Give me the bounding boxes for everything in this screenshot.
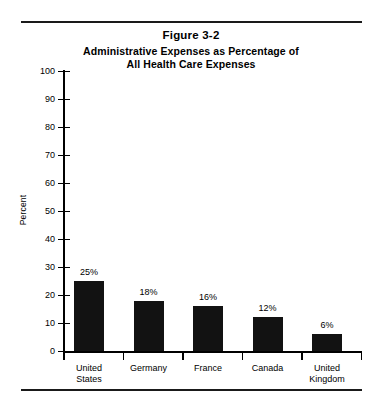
- y-axis-tick-label: 10: [25, 319, 55, 328]
- x-axis-category-label: France: [175, 363, 241, 374]
- y-axis-tick: [58, 99, 70, 101]
- x-axis-tick: [123, 351, 125, 360]
- y-axis-tick: [58, 211, 70, 213]
- bar-chart-plot: Percent 0102030405060708090100 25%18%16%…: [0, 0, 382, 410]
- y-axis-tick-label: 70: [25, 151, 55, 160]
- x-axis-tick: [63, 351, 65, 360]
- bar: [193, 306, 223, 351]
- x-axis-category-label: Canada: [235, 363, 301, 374]
- x-axis-category-label: UnitedKingdom: [294, 363, 360, 385]
- y-axis-tick: [58, 323, 70, 325]
- y-axis-tick-label: 20: [25, 291, 55, 300]
- bottom-rule: [21, 389, 362, 391]
- y-axis-tick: [58, 127, 70, 129]
- category-label-line: States: [56, 374, 122, 385]
- y-axis-tick: [58, 183, 70, 185]
- y-axis-tick-label: 50: [25, 207, 55, 216]
- x-axis-category-label: UnitedStates: [56, 363, 122, 385]
- y-axis-tick: [58, 155, 70, 157]
- category-label-line: United: [294, 363, 360, 374]
- y-axis-tick-label: 0: [25, 347, 55, 356]
- bar: [74, 281, 104, 351]
- bar-value-label: 12%: [245, 304, 291, 313]
- y-axis-tick-label: 80: [25, 123, 55, 132]
- bar-value-label: 18%: [126, 288, 172, 297]
- category-label-line: Kingdom: [294, 374, 360, 385]
- y-axis-tick-label: 100: [25, 67, 55, 76]
- figure-container: Figure 3-2 Administrative Expenses as Pe…: [0, 0, 382, 410]
- x-axis-tick: [301, 351, 303, 360]
- bar: [312, 334, 342, 351]
- y-axis-tick: [58, 295, 70, 297]
- category-label-line: Canada: [235, 363, 301, 374]
- x-axis-tick: [182, 351, 184, 360]
- y-axis-tick-label: 40: [25, 235, 55, 244]
- bar: [134, 301, 164, 351]
- category-label-line: United: [56, 363, 122, 374]
- x-axis-tick: [361, 351, 363, 360]
- x-axis-category-label: Germany: [116, 363, 182, 374]
- x-axis-line: [63, 351, 361, 353]
- category-label-line: France: [175, 363, 241, 374]
- y-axis-tick: [58, 239, 70, 241]
- bar: [253, 317, 283, 351]
- category-label-line: Germany: [116, 363, 182, 374]
- y-axis-tick-label: 30: [25, 263, 55, 272]
- x-axis-tick: [242, 351, 244, 360]
- y-axis-tick-label: 90: [25, 95, 55, 104]
- bar-value-label: 6%: [304, 321, 350, 330]
- y-axis-tick: [58, 71, 70, 73]
- y-axis-tick-label: 60: [25, 179, 55, 188]
- bar-value-label: 25%: [66, 268, 112, 277]
- bar-value-label: 16%: [185, 293, 231, 302]
